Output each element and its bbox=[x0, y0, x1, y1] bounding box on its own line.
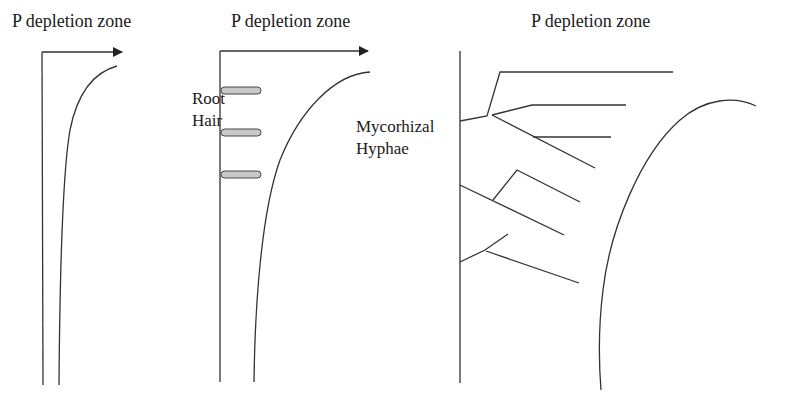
hypha-5 bbox=[493, 170, 580, 202]
panel-2-depletion-curve bbox=[254, 72, 370, 382]
panel-3 bbox=[460, 51, 756, 390]
hypha-1 bbox=[460, 72, 673, 121]
hypha-6 bbox=[460, 234, 508, 262]
hypha-2 bbox=[492, 105, 626, 115]
hypha-4 bbox=[460, 185, 564, 235]
panel-1 bbox=[42, 52, 122, 385]
hypha-7 bbox=[486, 251, 579, 283]
diagram-canvas bbox=[0, 0, 787, 402]
root-hair-2 bbox=[221, 129, 261, 136]
panel-2 bbox=[220, 51, 370, 382]
root-hair-1 bbox=[221, 87, 261, 94]
panel-1-depletion-curve bbox=[59, 66, 117, 385]
root-hair-3 bbox=[221, 171, 261, 178]
hypha-3 bbox=[492, 115, 595, 168]
panel-1-root-axis bbox=[42, 52, 43, 385]
panel-3-depletion-curve bbox=[599, 100, 756, 390]
